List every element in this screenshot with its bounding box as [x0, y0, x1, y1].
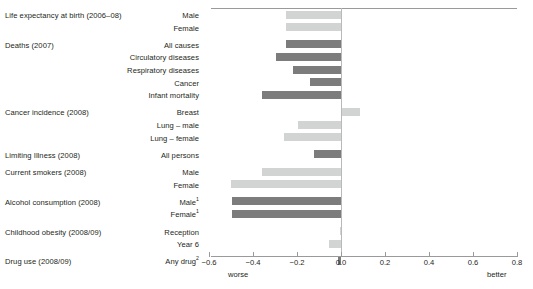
plot-area [211, 8, 517, 256]
x-tick [517, 252, 518, 257]
bar [314, 150, 342, 158]
category-label: Female1 [0, 210, 199, 219]
x-axis-line [211, 256, 517, 257]
zero-reference-line [341, 8, 342, 256]
category-label: Male [0, 168, 199, 177]
category-label: All causes [0, 41, 199, 50]
category-label: Female [0, 181, 199, 190]
axis-endpoint-worse: worse [228, 270, 248, 279]
category-label: Cancer [0, 79, 199, 88]
bar [286, 40, 341, 48]
category-label: Circulatory diseases [0, 53, 199, 62]
category-label: Breast [0, 108, 199, 117]
x-tick-label: 0.6 [453, 258, 493, 267]
category-label: Male [0, 11, 199, 20]
bar [293, 66, 341, 74]
x-tick-label: 0.0 [321, 258, 361, 267]
chart-container: Life expectancy at birth (2006–08)Deaths… [0, 0, 533, 289]
bar [262, 91, 341, 99]
category-label: Any drug2 [0, 257, 199, 266]
category-label: Lung – male [0, 121, 199, 130]
bar [298, 121, 341, 129]
x-tick-label: 0.2 [365, 258, 405, 267]
x-tick-label: 0.8 [497, 258, 533, 267]
bar [231, 180, 341, 188]
category-label: Respiratory diseases [0, 66, 199, 75]
bar [342, 108, 360, 116]
x-tick [209, 252, 210, 257]
category-label: Female [0, 24, 199, 33]
category-label: Lung – female [0, 134, 199, 143]
x-tick [253, 252, 254, 257]
bar [232, 210, 341, 218]
category-label: All persons [0, 151, 199, 160]
x-tick [297, 252, 298, 257]
bar [276, 53, 341, 61]
category-label: Year 6 [0, 240, 199, 249]
bar [286, 23, 341, 31]
category-label: Infant mortality [0, 91, 199, 100]
x-tick-label: 0.4 [409, 258, 449, 267]
bar [310, 78, 341, 86]
bar [232, 197, 341, 205]
x-tick-label: −0.2 [277, 258, 317, 267]
x-tick-label: −0.6 [189, 258, 229, 267]
footnote-marker: 1 [196, 196, 199, 202]
footnote-marker: 1 [196, 209, 199, 215]
x-tick [385, 252, 386, 257]
x-tick-label: −0.4 [233, 258, 273, 267]
x-tick [429, 252, 430, 257]
x-tick [341, 252, 342, 257]
category-label: Reception [0, 228, 199, 237]
x-tick [473, 252, 474, 257]
bar [262, 168, 341, 176]
bar [340, 227, 341, 235]
category-label: Male1 [0, 198, 199, 207]
bar [286, 11, 341, 19]
bar [329, 240, 341, 248]
bar [284, 133, 341, 141]
axis-endpoint-better: better [487, 270, 506, 279]
